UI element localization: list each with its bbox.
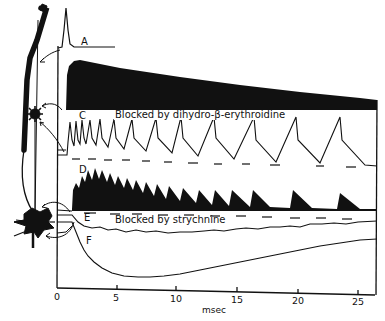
- right-frame-line: [376, 100, 377, 295]
- trace-label-c: C: [79, 111, 86, 121]
- trace-label-f: F: [86, 236, 92, 246]
- arrow-b-icon: [42, 104, 62, 110]
- trace-label-b: B: [81, 52, 88, 62]
- annotation-e-block: Blocked by strychnine: [114, 215, 226, 225]
- trace-c-baseline: [72, 159, 356, 167]
- x-tick-20: 20: [292, 296, 304, 306]
- trace-label-d: D: [79, 165, 87, 175]
- x-axis-line: [57, 288, 375, 295]
- x-tick-10: 10: [170, 294, 182, 304]
- x-tick-25: 25: [352, 297, 364, 307]
- x-axis-unit: msec: [202, 306, 226, 315]
- x-tick-15: 15: [231, 295, 243, 305]
- trace-b: [58, 60, 377, 110]
- x-tick-5: 5: [113, 293, 119, 303]
- trace-label-e: E: [84, 213, 90, 223]
- arrow-c-icon: [40, 122, 64, 152]
- trace-d: [72, 168, 377, 211]
- annotation-c-block: Blocked by dihydro-β-erythroidine: [114, 110, 286, 120]
- trace-c: [57, 117, 377, 166]
- x-tick-0: 0: [54, 292, 60, 302]
- figure-canvas: [0, 0, 385, 321]
- y-axis-line: [57, 46, 58, 288]
- trace-label-a: A: [81, 37, 88, 47]
- motoneuron-icon: [14, 208, 54, 248]
- interneuron-icon: [27, 106, 43, 122]
- neuron-diagram: [14, 4, 55, 248]
- arrow-a-icon: [40, 50, 60, 62]
